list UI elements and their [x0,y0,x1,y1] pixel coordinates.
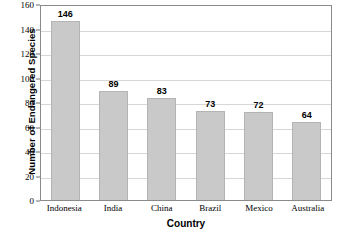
bar-value-label: 73 [186,99,234,109]
bar[interactable] [147,98,176,200]
y-tick-label: 60 [25,123,34,133]
bars-layer: 1468983737264 [41,6,331,200]
y-tick-label: 80 [25,98,34,108]
y-tick-label: 160 [21,0,35,10]
bar-chart-figure: Number of Endangered Species 02040608010… [0,0,341,237]
y-tick-label: 120 [21,49,35,59]
y-tick-label: 0 [30,196,35,206]
bar-slot: 146 [41,6,89,200]
bar-value-label: 83 [138,86,186,96]
x-tick-label: Mexico [235,203,284,213]
x-tick-label: India [89,203,138,213]
x-tick-label: Brazil [186,203,235,213]
bar-value-label: 72 [234,100,282,110]
y-tick-label: 20 [25,172,34,182]
bar-slot: 72 [234,6,282,200]
y-tick-label: 140 [21,25,35,35]
x-axis: IndonesiaIndiaChinaBrazilMexicoAustralia [40,203,332,213]
bar[interactable] [196,111,225,200]
bar-slot: 89 [89,6,137,200]
y-axis: 020406080100120140160 [0,5,40,201]
bar[interactable] [244,112,273,200]
y-tick-label: 100 [21,74,35,84]
x-axis-title: Country [40,218,332,229]
y-tick-label: 40 [25,147,34,157]
bar-value-label: 89 [89,79,137,89]
bar-slot: 64 [283,6,331,200]
bar[interactable] [51,21,80,200]
bar[interactable] [99,91,128,200]
bar-slot: 73 [186,6,234,200]
bar-value-label: 146 [41,9,89,19]
bar-value-label: 64 [283,110,331,120]
bar-slot: 83 [138,6,186,200]
x-tick-label: Indonesia [40,203,89,213]
plot-area: 1468983737264 [40,5,332,201]
bar[interactable] [292,122,321,200]
x-tick-label: Australia [283,203,332,213]
x-tick-label: China [137,203,186,213]
